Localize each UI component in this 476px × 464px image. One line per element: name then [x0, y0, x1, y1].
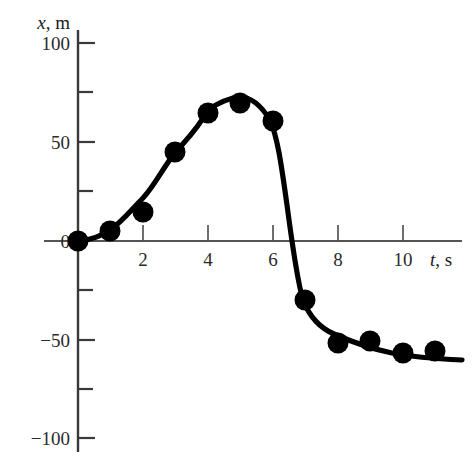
x-tick-label-2: 2 — [138, 249, 148, 270]
chart-background — [0, 0, 476, 464]
x-tick-label-10: 10 — [394, 249, 413, 270]
data-point — [165, 142, 186, 163]
y-axis-title-unit: , m — [46, 12, 71, 33]
data-point — [68, 231, 89, 252]
data-point — [360, 331, 381, 352]
position-time-chart: 100 50 0 −50 −100 2 4 6 8 10 x, m t, s — [0, 0, 476, 464]
y-axis-title: x, m — [36, 12, 70, 33]
x-tick-label-4: 4 — [203, 249, 213, 270]
data-point — [425, 341, 446, 362]
y-tick-label-minus50: −50 — [40, 330, 70, 351]
data-point — [198, 103, 219, 124]
data-point — [328, 333, 349, 354]
data-point — [230, 93, 251, 114]
y-tick-label-minus100: −100 — [31, 428, 70, 449]
data-point — [393, 343, 414, 364]
x-tick-label-6: 6 — [268, 249, 278, 270]
data-point — [263, 111, 284, 132]
data-point — [295, 290, 316, 311]
x-axis-title-unit: , s — [435, 249, 452, 270]
y-tick-label-100: 100 — [42, 33, 71, 54]
x-tick-label-8: 8 — [333, 249, 343, 270]
x-axis-title: t, s — [430, 249, 452, 270]
data-point — [100, 221, 121, 242]
data-point — [133, 202, 154, 223]
y-tick-label-50: 50 — [51, 132, 70, 153]
